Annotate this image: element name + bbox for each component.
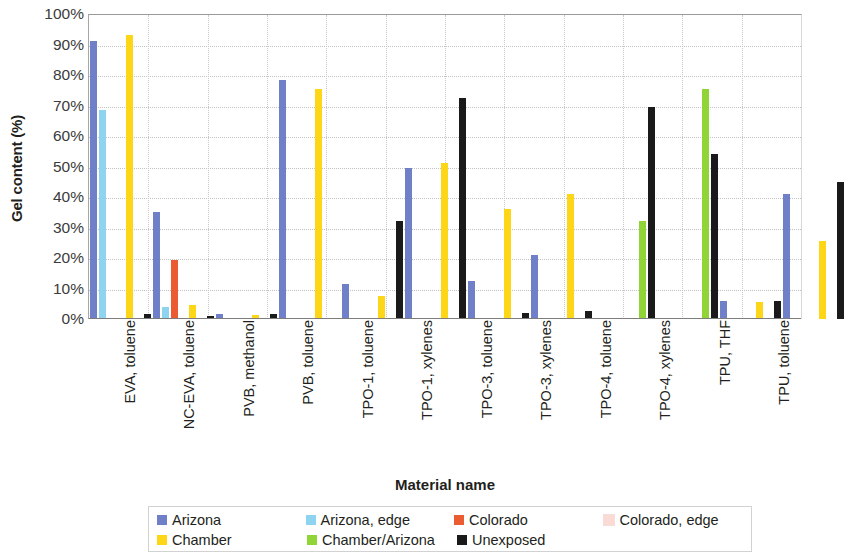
bar-group: [530, 15, 593, 319]
y-axis-tick: 100%: [26, 6, 84, 22]
y-axis-tick: 70%: [26, 98, 84, 114]
bar[interactable]: [468, 281, 475, 319]
y-axis-tick: 60%: [26, 128, 84, 144]
bar[interactable]: [441, 163, 448, 319]
bar[interactable]: [126, 35, 133, 319]
legend-row-first: ArizonaArizona, edgeColoradoColorado, ed…: [157, 510, 751, 530]
bar-slot: [342, 15, 349, 319]
bar-slot: [621, 15, 628, 319]
bar[interactable]: [639, 221, 646, 319]
bar-slot: [288, 15, 295, 319]
bar[interactable]: [189, 305, 196, 319]
bar[interactable]: [153, 212, 160, 319]
x-axis-tick: TPO-4, xylenes: [658, 320, 673, 420]
bar[interactable]: [279, 80, 286, 319]
legend-item[interactable]: Unexposed: [457, 530, 607, 550]
legend-item[interactable]: Chamber/Arizona: [307, 530, 457, 550]
y-axis-tick: 0%: [26, 311, 84, 327]
legend-label: Unexposed: [472, 533, 545, 548]
y-axis-tick: 10%: [26, 281, 84, 297]
x-axis-tick-cell: PVB, methanol: [207, 320, 267, 468]
bar-slot: [198, 15, 205, 319]
bar-slot: [333, 15, 340, 319]
bar[interactable]: [819, 241, 826, 319]
x-axis-baseline: [89, 318, 801, 319]
bar-slot: [378, 15, 385, 319]
bar-slot: [648, 15, 655, 319]
x-axis-tick: PVB, methanol: [242, 320, 257, 417]
legend-swatch-icon: [454, 515, 464, 525]
bar-slot: [540, 15, 547, 319]
legend-swatch-icon: [307, 535, 317, 545]
bar[interactable]: [711, 154, 718, 319]
bar-slot: [693, 15, 700, 319]
bar[interactable]: [531, 255, 538, 319]
bar-slot: [549, 15, 556, 319]
bar-slot: [828, 15, 835, 319]
bar-slot: [351, 15, 358, 319]
x-axis-tick: TPU, THF: [718, 320, 733, 385]
bar-slot: [684, 15, 691, 319]
legend-item[interactable]: Arizona, edge: [306, 510, 455, 530]
bar-slot: [441, 15, 448, 319]
bar-group: [404, 15, 467, 319]
bar-slot: [369, 15, 376, 319]
chart-legend: ArizonaArizona, edgeColoradoColorado, ed…: [148, 506, 752, 552]
bar[interactable]: [342, 284, 349, 319]
legend-label: Chamber: [172, 533, 232, 548]
x-axis-tick: TPO-4, toluene: [599, 320, 614, 418]
bar-slot: [810, 15, 817, 319]
bar[interactable]: [720, 301, 727, 319]
bar-slot: [189, 15, 196, 319]
bar[interactable]: [648, 107, 655, 319]
bar[interactable]: [837, 182, 844, 319]
legend-item[interactable]: Arizona: [157, 510, 306, 530]
bar-group: [215, 15, 278, 319]
bar-group: [89, 15, 152, 319]
bar[interactable]: [783, 194, 790, 319]
x-axis-tick: NC-EVA, toluene: [182, 320, 197, 429]
bar[interactable]: [702, 89, 709, 319]
bar-slot: [567, 15, 574, 319]
bar-slot: [522, 15, 529, 319]
bar-slot: [126, 15, 133, 319]
bar[interactable]: [405, 168, 412, 319]
bar[interactable]: [171, 260, 178, 319]
bar-slot: [477, 15, 484, 319]
x-axis-tick-cell: TPU, toluene: [743, 320, 803, 468]
y-axis-tick: 50%: [26, 159, 84, 175]
x-axis-tick-cell: TPO-1, toluene: [326, 320, 386, 468]
bar-slot: [324, 15, 331, 319]
bar-slot: [495, 15, 502, 319]
bar-slot: [702, 15, 709, 319]
legend-row-second: ChamberChamber/ArizonaUnexposed: [157, 530, 751, 550]
bar[interactable]: [396, 221, 403, 319]
bar[interactable]: [756, 302, 763, 319]
legend-item[interactable]: Colorado, edge: [603, 510, 752, 530]
x-axis-tick-cell: NC-EVA, toluene: [148, 320, 208, 468]
bar-slot: [108, 15, 115, 319]
bar[interactable]: [459, 98, 466, 319]
bar-group: [152, 15, 215, 319]
bar-slot: [243, 15, 250, 319]
legend-swatch-icon: [306, 515, 316, 525]
bar[interactable]: [774, 301, 781, 319]
bar-slot: [252, 15, 259, 319]
bar-slot: [234, 15, 241, 319]
bar-slot: [486, 15, 493, 319]
legend-item[interactable]: Colorado: [454, 510, 603, 530]
bar[interactable]: [567, 194, 574, 319]
bar[interactable]: [315, 89, 322, 319]
bar-slot: [270, 15, 277, 319]
legend-item[interactable]: Chamber: [157, 530, 307, 550]
bar-slot: [720, 15, 727, 319]
bar[interactable]: [90, 41, 97, 319]
bar-groups: [89, 15, 801, 319]
bar-slot: [585, 15, 592, 319]
bar[interactable]: [504, 209, 511, 319]
bar[interactable]: [99, 110, 106, 319]
bar-slot: [738, 15, 745, 319]
bar[interactable]: [378, 296, 385, 319]
bar-slot: [306, 15, 313, 319]
bar-slot: [756, 15, 763, 319]
